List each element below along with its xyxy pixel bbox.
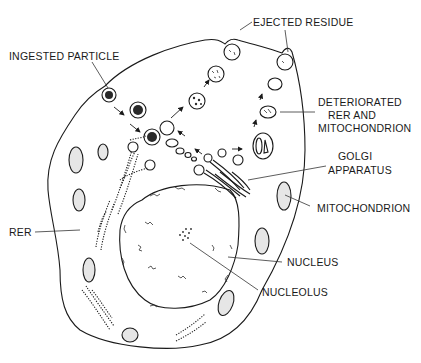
ingested-particle-vesicle [102,88,116,102]
exocytosis-vesicle-2 [277,54,293,70]
phagosome [130,102,146,118]
label-ingested-particle: INGESTED PARTICLE [9,50,119,62]
label-golgi-1: GOLGI [338,150,372,162]
label-nucleus: NUCLEUS [287,256,339,268]
cell-membrane [48,39,305,348]
exocytosis-vesicle-1 [224,44,240,60]
label-mitochondrion: MITOCHONDRION [317,202,410,214]
label-deteriorated-3: MITOCHONDRION [318,122,411,134]
mitochondria [69,144,291,342]
golgi-vesicles [166,139,243,165]
residual-body-2 [208,66,224,82]
label-ejected-residue: EJECTED RESIDUE [253,16,353,28]
label-nucleolus: NUCLEOLUS [262,286,328,298]
label-deteriorated-1: DETERIORATED [318,96,402,108]
nucleolus [179,228,192,241]
label-deteriorated-2: RER AND [328,109,376,121]
nucleus [120,185,239,308]
residual-body [189,93,205,109]
label-golgi-2: APPARATUS [328,164,392,176]
label-rer: RER [9,226,32,238]
cell-diagram: INGESTED PARTICLE EJECTED RESIDUE DETERI… [0,0,421,363]
deteriorated-organelles [253,78,282,159]
